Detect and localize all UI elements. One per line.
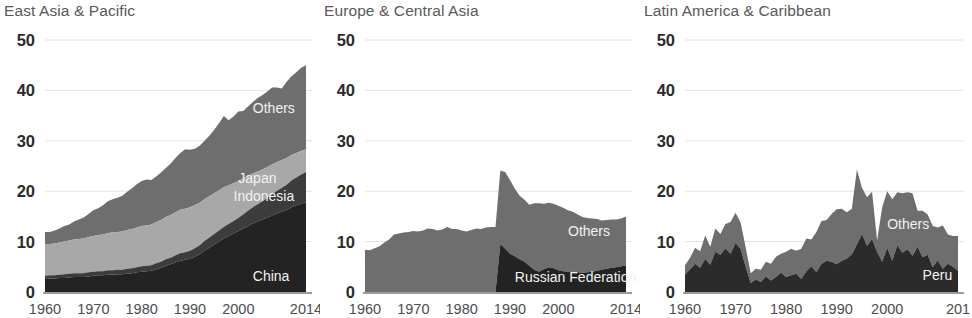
y-axis-tick-label: 20 [657, 182, 675, 200]
series-annotation-label: Russian Federation [515, 269, 636, 285]
y-axis-tick-label: 50 [337, 31, 355, 49]
x-axis-tick-label: 1980 [446, 301, 478, 317]
chart-panel-3: Latin America & Caribbean010203040501960… [640, 0, 972, 318]
y-axis-tick-label: 30 [657, 132, 675, 150]
series-annotation-label: China [253, 268, 290, 284]
x-axis-tick-label: 1980 [770, 301, 802, 317]
x-axis-tick-label: 2000 [871, 301, 903, 317]
y-axis-tick-label: 10 [17, 233, 35, 251]
y-axis-tick-label: 0 [666, 283, 675, 301]
x-axis-tick-label: 2000 [222, 301, 254, 317]
x-axis-tick-label: 1970 [77, 301, 109, 317]
y-axis-tick-label: 40 [657, 81, 675, 99]
series-annotation-label: Others [887, 216, 929, 232]
plot-area: 01020304050196019701980199020002014Other… [0, 0, 320, 318]
x-axis-tick-label: 1990 [174, 301, 206, 317]
y-axis-tick-label: 10 [657, 233, 675, 251]
x-axis-tick-label: 1990 [494, 301, 526, 317]
x-axis-tick-label: 2000 [542, 301, 574, 317]
y-axis-tick-label: 30 [17, 132, 35, 150]
y-axis-tick-label: 20 [17, 182, 35, 200]
y-axis-tick-label: 50 [657, 31, 675, 49]
plot-area: 0102030405019601970198019902000201Others… [640, 0, 972, 318]
y-axis-tick-label: 30 [337, 132, 355, 150]
x-axis-tick-label: 2014 [610, 301, 640, 317]
y-axis-tick-label: 0 [346, 283, 355, 301]
x-axis-tick-label: 1960 [669, 301, 701, 317]
chart-panel-2: Europe & Central Asia0102030405019601970… [320, 0, 640, 318]
x-axis-tick-label: 1970 [719, 301, 751, 317]
y-axis-tick-label: 10 [337, 233, 355, 251]
series-annotation-label: Japan [238, 170, 276, 186]
plot-area: 01020304050196019701980199020002014Other… [320, 0, 640, 318]
x-axis-tick-label: 1990 [821, 301, 853, 317]
x-axis-tick-label: 1960 [349, 301, 381, 317]
y-axis-tick-label: 50 [17, 31, 35, 49]
x-axis-tick-label: 1960 [29, 301, 61, 317]
series-annotation-label: Others [253, 100, 295, 116]
x-axis-tick-label: 201 [946, 301, 970, 317]
series-annotation-label: Peru [923, 267, 953, 283]
series-annotation-label: Indonesia [234, 188, 295, 204]
y-axis-tick-label: 40 [17, 81, 35, 99]
y-axis-tick-label: 0 [26, 283, 35, 301]
x-axis-tick-label: 1970 [397, 301, 429, 317]
series-annotation-label: Others [568, 223, 610, 239]
x-axis-tick-label: 2014 [290, 301, 320, 317]
chart-panel-1: East Asia & Pacific010203040501960197019… [0, 0, 320, 318]
y-axis-tick-label: 20 [337, 182, 355, 200]
x-axis-tick-label: 1980 [126, 301, 158, 317]
y-axis-tick-label: 40 [337, 81, 355, 99]
